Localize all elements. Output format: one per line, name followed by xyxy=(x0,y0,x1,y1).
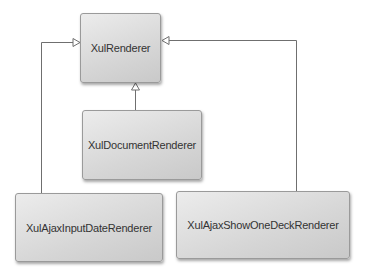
class-node-xulrenderer[interactable]: XulRenderer xyxy=(80,13,161,83)
class-node-xuldocumentrenderer[interactable]: XulDocumentRenderer xyxy=(82,110,202,180)
class-label: XulAjaxShowOneDeckRenderer xyxy=(187,219,338,231)
class-node-xulajaxshowonedeckrenderer[interactable]: XulAjaxShowOneDeckRenderer xyxy=(176,191,350,259)
generalization-arrowhead-icon xyxy=(73,39,80,47)
edge-inputdate-to-renderer xyxy=(42,43,75,194)
generalization-arrowhead-icon xyxy=(132,83,140,90)
class-node-xulajaxinputdaterenderer[interactable]: XulAjaxInputDateRenderer xyxy=(15,193,163,262)
class-label: XulDocumentRenderer xyxy=(88,139,196,151)
diagram-canvas: XulRenderer XulDocumentRenderer XulAjaxI… xyxy=(0,0,367,279)
class-label: XulRenderer xyxy=(91,42,151,54)
generalization-arrowhead-icon xyxy=(162,37,169,45)
class-label: XulAjaxInputDateRenderer xyxy=(26,222,152,234)
